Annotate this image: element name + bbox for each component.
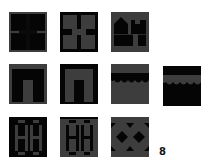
pattern-tile-r2-c1[interactable] [9,64,47,104]
pattern-tile-r3-c2[interactable] [60,117,98,157]
pattern-tile-r1-c2[interactable] [60,12,98,52]
diamond-lattice-pattern-icon [111,117,149,157]
double-h-pattern-icon [60,117,98,157]
double-h-pattern-icon [9,117,47,157]
pattern-tile-r2-c4[interactable] [163,66,201,106]
wave-pattern-icon [111,64,149,104]
pattern-tile-r3-c1[interactable] [9,117,47,157]
arch-pattern-icon [9,64,47,104]
pattern-tile-r1-c1[interactable] [9,12,47,52]
pattern-tile-r3-c3[interactable] [111,117,149,157]
cross-pattern-icon [60,12,98,52]
pattern-tile-r2-c2[interactable] [60,64,98,104]
house-pattern-icon [111,12,149,52]
pattern-tile-r1-c3[interactable] [111,12,149,52]
answer-label: 8 [159,147,166,157]
cross-pattern-icon [9,12,47,52]
wave-pattern-icon [163,66,201,106]
arch-pattern-icon [60,64,98,104]
pattern-tile-r2-c3[interactable] [111,64,149,104]
